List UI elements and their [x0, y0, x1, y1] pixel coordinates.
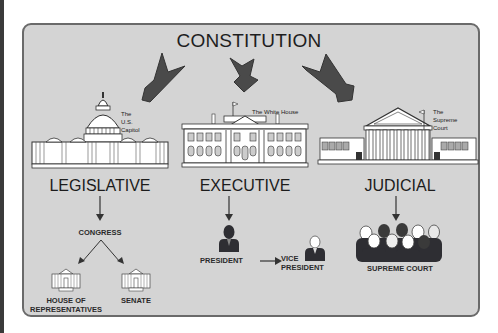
branch-legislative: LEGISLATIVE: [30, 177, 170, 195]
capitol-label-line2: U.S.: [121, 118, 140, 126]
arrow-down-executive-icon: [225, 196, 233, 222]
congress-label: CONGRESS: [60, 228, 140, 237]
white-house-label: The White House: [252, 108, 298, 116]
capitol-building-icon: [32, 92, 168, 172]
vp-label-line1: VICE: [281, 254, 341, 263]
house-label-line1: HOUSE OF: [26, 296, 106, 305]
vice-president-label: VICE PRESIDENT: [281, 254, 341, 272]
arrow-down-legislative-icon: [96, 196, 104, 222]
president-label: PRESIDENT: [200, 256, 260, 265]
branch-judicial: JUDICIAL: [345, 177, 455, 195]
capitol-label: The U.S. Capitol: [121, 110, 140, 134]
supreme-court-label: The Supreme Court: [433, 108, 457, 132]
house-building-icon: [51, 268, 81, 292]
arrow-down-judicial-icon: [392, 196, 400, 222]
capitol-label-line3: Capitol: [121, 126, 140, 134]
constitution-title: CONSTITUTION: [0, 30, 498, 52]
arrows-to-chambers-icon: [76, 240, 126, 266]
senate-label: SENATE: [110, 296, 162, 305]
president-figure-icon: [218, 224, 240, 252]
supreme-court-justices-icon: [356, 224, 442, 262]
arrow-president-to-vp-icon: [260, 256, 282, 266]
arrow-to-judicial-icon: [302, 50, 362, 110]
senate-building-icon: [121, 268, 151, 292]
supreme-court-label-line2: Supreme: [433, 116, 457, 124]
vp-label-line2: PRESIDENT: [281, 263, 341, 272]
supreme-court-label-line1: The: [433, 108, 457, 116]
house-label-line2: REPRESENTATIVES: [26, 305, 106, 314]
supreme-court-label-line3: Court: [433, 124, 457, 132]
capitol-label-line1: The: [121, 110, 140, 118]
branch-executive: EXECUTIVE: [180, 177, 310, 195]
house-of-representatives-label: HOUSE OF REPRESENTATIVES: [26, 296, 106, 314]
arrow-to-executive-icon: [228, 56, 268, 96]
supreme-court-label-bottom: SUPREME COURT: [352, 264, 448, 273]
